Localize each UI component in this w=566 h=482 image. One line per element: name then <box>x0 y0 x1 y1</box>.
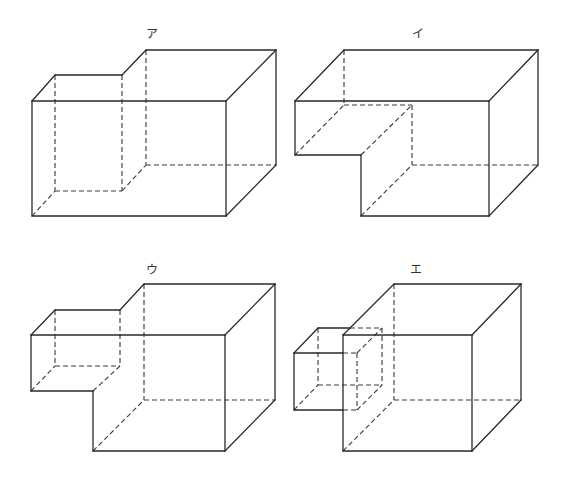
figure-label-u: ウ <box>146 260 158 277</box>
hidden-edge <box>32 191 55 216</box>
visible-edge <box>294 328 318 353</box>
hidden-edge <box>357 328 382 353</box>
solid-figure-i <box>295 50 538 216</box>
visible-edge <box>489 165 538 216</box>
hidden-edge <box>361 105 412 155</box>
figures-canvas <box>0 0 566 482</box>
hidden-edge <box>294 385 318 410</box>
figure-label-e: エ <box>410 260 422 277</box>
hidden-edge <box>93 366 120 391</box>
hidden-edge <box>122 165 146 191</box>
visible-edge <box>225 400 275 451</box>
hidden-edge <box>357 385 382 410</box>
solid-figure-a <box>32 50 276 216</box>
visible-edge <box>122 50 146 75</box>
hidden-edge <box>93 400 144 451</box>
visible-edge <box>31 310 55 335</box>
hidden-edge <box>295 105 344 155</box>
visible-edge <box>32 75 55 101</box>
visible-edge <box>226 165 276 216</box>
visible-edge <box>489 50 538 101</box>
visible-edge <box>226 50 276 101</box>
visible-edge <box>472 284 521 335</box>
hidden-edge <box>343 400 394 451</box>
visible-edge <box>295 50 344 101</box>
visible-edge <box>472 400 521 451</box>
hidden-edge <box>361 165 412 216</box>
figure-label-a: ア <box>146 24 158 41</box>
solid-figure-e <box>294 284 521 451</box>
hidden-edge <box>31 366 55 391</box>
visible-edge <box>343 284 394 335</box>
solid-figure-u <box>31 284 275 451</box>
figure-label-i: イ <box>412 24 424 41</box>
visible-edge <box>120 284 144 310</box>
visible-edge <box>225 284 275 335</box>
